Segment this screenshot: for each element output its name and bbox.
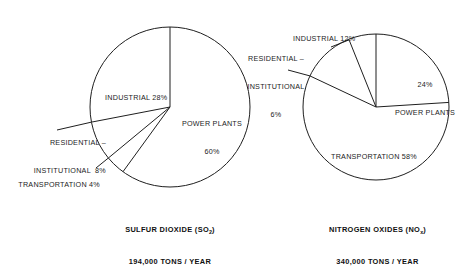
right-label-residential-line1: RESIDENTIAL –	[236, 54, 316, 63]
right-label-residential-institutional: RESIDENTIAL – INSTITUTIONAL 6%	[236, 36, 316, 137]
right-slice-boundary-transportation-end	[310, 76, 376, 107]
right-label-residential-line2: INSTITUTIONAL	[236, 82, 316, 91]
right-label-power-plants-line2: POWER PLANTS	[386, 108, 464, 117]
right-label-power-plants-line1: 24%	[386, 80, 464, 89]
left-caption-formula-tail: )	[212, 225, 215, 234]
left-caption-formula-base: SULFUR DIOXIDE (SO	[125, 225, 209, 234]
left-caption-line1: SULFUR DIOXIDE (SO2)	[105, 225, 235, 238]
left-label-transportation: TRANSPORTATION 4%	[0, 162, 100, 208]
right-label-transportation: TRANSPORTATION 58%	[320, 134, 428, 180]
left-label-industrial-line1: INDUSTRIAL 28%	[105, 93, 167, 102]
right-caption-line1: NITROGEN OXIDES (NOx)	[310, 225, 445, 238]
left-caption-line2: 194,000 TONS / YEAR	[105, 257, 235, 267]
left-label-residential-line1: RESIDENTIAL –	[0, 138, 106, 147]
right-label-power-plants: 24% POWER PLANTS	[386, 62, 464, 136]
left-chart-caption: SULFUR DIOXIDE (SO2) 194,000 TONS / YEAR	[105, 206, 235, 270]
left-label-power-plants-line2: 60%	[177, 147, 247, 156]
right-chart-caption: NITROGEN OXIDES (NOx) 340,000 TONS / YEA…	[310, 206, 445, 270]
left-label-industrial: INDUSTRIAL 28%	[105, 75, 167, 121]
right-label-transportation-line1: TRANSPORTATION 58%	[320, 152, 428, 161]
right-label-residential-line3: 6%	[236, 110, 316, 119]
right-caption-formula-tail: )	[423, 225, 426, 234]
right-caption-line2: 340,000 TONS / YEAR	[310, 257, 445, 267]
left-label-transportation-line1: TRANSPORTATION 4%	[0, 180, 100, 189]
right-caption-formula-base: NITROGEN OXIDES (NO	[329, 225, 420, 234]
